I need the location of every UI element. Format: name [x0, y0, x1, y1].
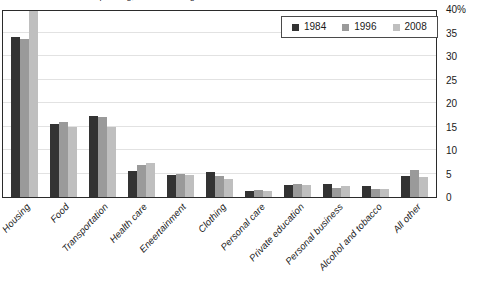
bar — [323, 184, 332, 197]
bar — [29, 10, 38, 197]
legend-item[interactable]: 1996 — [342, 22, 376, 32]
y-axis-tick-label: 10 — [446, 146, 457, 156]
bar-group — [239, 11, 278, 197]
bar — [206, 172, 215, 197]
plot-area — [2, 10, 437, 198]
x-axis-tick-label: All other — [391, 201, 423, 235]
bar — [401, 176, 410, 197]
y-axis-tick-label: 0 — [446, 193, 452, 203]
bar — [185, 175, 194, 197]
bar — [11, 37, 20, 197]
legend-swatch-icon — [292, 24, 299, 31]
bar-group — [356, 11, 395, 197]
y-axis-tick-label: 35 — [446, 29, 457, 39]
y-axis-tick-label: 15 — [446, 123, 457, 133]
bar — [302, 185, 311, 197]
bar — [362, 186, 371, 197]
legend-swatch-icon — [342, 24, 349, 31]
x-axis-tick-label: Food — [48, 201, 71, 225]
bar — [371, 189, 380, 197]
bar — [293, 184, 302, 197]
chart-legend: 198419962008 — [281, 16, 438, 38]
bar-group — [122, 11, 161, 197]
bar — [137, 165, 146, 197]
bar — [380, 189, 389, 197]
bar-group — [200, 11, 239, 197]
bar — [128, 171, 137, 197]
y-axis-tick-label: 5 — [446, 170, 452, 180]
bar-group — [44, 11, 83, 197]
bar — [176, 174, 185, 198]
bar — [50, 124, 59, 197]
legend-label: 2008 — [405, 22, 427, 32]
bar-group — [395, 11, 434, 197]
x-axis-tick-label: Health care — [107, 201, 149, 245]
bar — [410, 170, 419, 197]
x-axis-tick-label: Clothing — [195, 201, 227, 235]
x-axis-tick-label: Housing — [0, 201, 32, 235]
bar — [263, 191, 272, 197]
bar — [68, 127, 77, 198]
bar — [284, 185, 293, 197]
legend-label: 1984 — [304, 22, 326, 32]
bar-group — [317, 11, 356, 197]
bar — [254, 190, 263, 197]
bar — [167, 175, 176, 197]
bar — [20, 39, 29, 197]
bars-layer — [3, 11, 436, 197]
bar — [107, 127, 116, 198]
bar — [224, 179, 233, 197]
bar — [245, 191, 254, 197]
y-axis-tick-label: 30 — [446, 52, 457, 62]
bar — [332, 188, 341, 197]
bar-group — [83, 11, 122, 197]
chart-title: Shares of household spending, selected c… — [10, 0, 214, 1]
y-axis: 0510152025303540% — [441, 0, 491, 208]
bar-group — [5, 11, 44, 197]
bar — [341, 186, 350, 197]
bar — [59, 122, 68, 197]
bar — [215, 176, 224, 197]
legend-item[interactable]: 2008 — [393, 22, 427, 32]
y-axis-tick-label: 20 — [446, 99, 457, 109]
legend-swatch-icon — [393, 24, 400, 31]
bar — [89, 116, 98, 197]
x-axis: HousingFoodTransportationHealth careEnee… — [2, 199, 437, 283]
bar — [419, 177, 428, 197]
y-axis-tick-label: 25 — [446, 76, 457, 86]
bar — [146, 163, 155, 197]
bar-group — [278, 11, 317, 197]
legend-label: 1996 — [354, 22, 376, 32]
bar-chart: Shares of household spending, selected c… — [0, 0, 493, 283]
legend-item[interactable]: 1984 — [292, 22, 326, 32]
bar-group — [161, 11, 200, 197]
bar — [98, 117, 107, 197]
y-axis-tick-label: 40% — [446, 5, 466, 15]
